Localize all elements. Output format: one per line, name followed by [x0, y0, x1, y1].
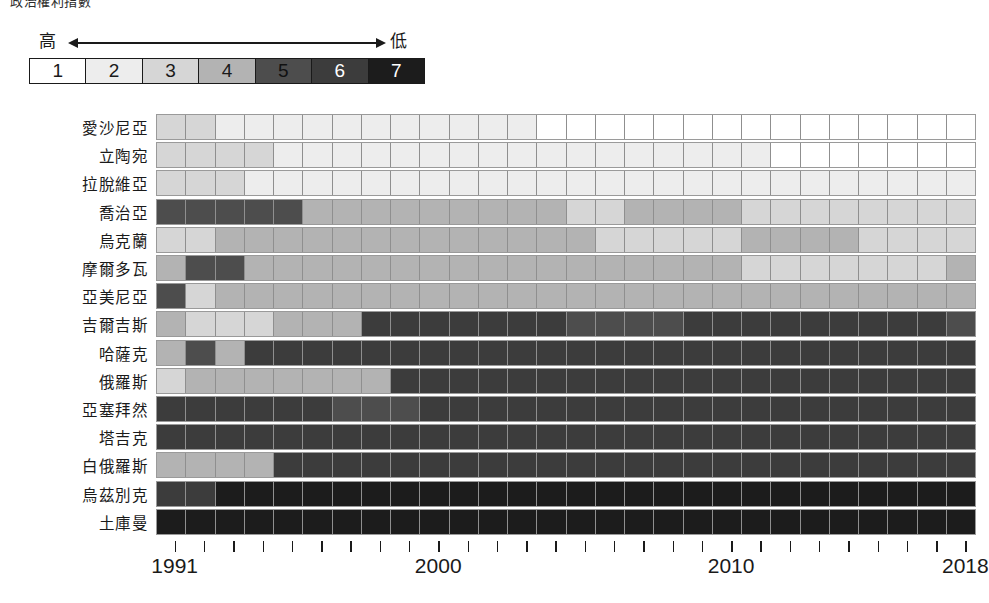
heatmap-cell [450, 341, 479, 365]
heatmap-cell [333, 284, 362, 308]
heatmap-cell [888, 284, 917, 308]
heatmap-cell [625, 425, 654, 449]
heatmap-cell [420, 453, 449, 477]
heatmap-cell [420, 256, 449, 280]
heatmap-cell [362, 312, 391, 336]
heatmap-cell [859, 425, 888, 449]
heatmap-cell [567, 143, 596, 167]
heatmap-cell [157, 482, 186, 506]
heatmap-cell [303, 115, 332, 139]
heatmap-cell [918, 143, 947, 167]
heatmap-cell [333, 200, 362, 224]
heatmap-cell [684, 143, 713, 167]
heatmap-cell [888, 425, 917, 449]
heatmap-cell [654, 115, 683, 139]
heatmap-cell [245, 171, 274, 195]
heatmap-cell [303, 312, 332, 336]
heatmap-cell [333, 312, 362, 336]
heatmap-cell [742, 369, 771, 393]
heatmap-cell [830, 369, 859, 393]
heatmap-cell [654, 143, 683, 167]
heatmap-cell [654, 482, 683, 506]
heatmap-cell [537, 256, 566, 280]
heatmap-cell [333, 510, 362, 534]
heatmap-row-label: 烏克蘭 [0, 229, 156, 251]
heatmap-cell [947, 312, 975, 336]
heatmap-cell [830, 482, 859, 506]
heatmap-cell [918, 284, 947, 308]
legend-level-5: 5 [256, 59, 312, 83]
heatmap-cell [596, 397, 625, 421]
heatmap-cell [479, 228, 508, 252]
heatmap-cell [186, 369, 215, 393]
heatmap-row-cells [156, 227, 976, 253]
heatmap-cell [771, 312, 800, 336]
heatmap-cell [625, 256, 654, 280]
x-axis-tick [673, 541, 675, 552]
heatmap-cell [508, 510, 537, 534]
heatmap-cell [713, 284, 742, 308]
x-axis-tick [555, 541, 557, 552]
x-axis-tick [204, 541, 206, 552]
heatmap-cell [654, 369, 683, 393]
heatmap-cell [303, 200, 332, 224]
heatmap-cell [362, 284, 391, 308]
heatmap-cell [771, 115, 800, 139]
heatmap-cell [888, 115, 917, 139]
heatmap-cell [245, 425, 274, 449]
heatmap-cell [801, 369, 830, 393]
heatmap-cell [362, 397, 391, 421]
heatmap-cell [742, 425, 771, 449]
heatmap-cell [537, 510, 566, 534]
x-axis-tick [321, 541, 323, 552]
heatmap-cell [888, 341, 917, 365]
heatmap-cell [450, 453, 479, 477]
heatmap-row-label: 喬治亞 [0, 201, 156, 223]
heatmap-cell [918, 425, 947, 449]
heatmap-cell [947, 200, 975, 224]
heatmap-cell [508, 171, 537, 195]
heatmap-cell [333, 482, 362, 506]
heatmap-cell [713, 341, 742, 365]
heatmap-cell [654, 397, 683, 421]
heatmap-cell [625, 510, 654, 534]
heatmap-cell [157, 425, 186, 449]
heatmap-cell [186, 397, 215, 421]
heatmap-cell [450, 369, 479, 393]
heatmap-cell [567, 115, 596, 139]
heatmap-cell [391, 143, 420, 167]
heatmap-cell [801, 228, 830, 252]
heatmap-cell [450, 143, 479, 167]
heatmap-cell [625, 341, 654, 365]
heatmap-cell [274, 115, 303, 139]
heatmap-cell [771, 453, 800, 477]
heatmap-cell [801, 115, 830, 139]
heatmap-cell [713, 482, 742, 506]
heatmap-row: 哈薩克 [0, 339, 982, 367]
legend-level-4: 4 [199, 59, 255, 83]
legend-level-1: 1 [30, 59, 86, 83]
heatmap-cell [742, 171, 771, 195]
heatmap-cell [362, 228, 391, 252]
heatmap-cell [303, 171, 332, 195]
heatmap-row-label: 俄羅斯 [0, 370, 156, 392]
heatmap-cell [479, 200, 508, 224]
heatmap-cell [303, 284, 332, 308]
heatmap-cell [888, 397, 917, 421]
heatmap-cell [537, 171, 566, 195]
x-axis-label: 2000 [415, 554, 462, 578]
heatmap-cell [654, 284, 683, 308]
x-axis-tick [702, 541, 704, 552]
heatmap-cell [654, 312, 683, 336]
heatmap-cell [157, 200, 186, 224]
heatmap-cell [947, 341, 975, 365]
heatmap-cell [654, 425, 683, 449]
heatmap-cell [742, 510, 771, 534]
heatmap-cell [888, 510, 917, 534]
heatmap-cell [654, 200, 683, 224]
heatmap-cell [274, 171, 303, 195]
heatmap-cell [333, 341, 362, 365]
heatmap-cell [274, 284, 303, 308]
heatmap-cell [859, 284, 888, 308]
heatmap-cell [274, 453, 303, 477]
